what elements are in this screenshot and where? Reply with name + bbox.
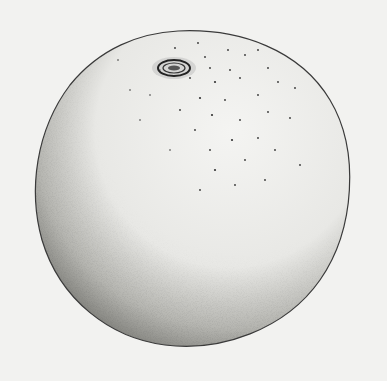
stem-scar xyxy=(152,57,196,79)
orange-illustration xyxy=(0,0,387,381)
stipple-texture xyxy=(0,0,387,381)
